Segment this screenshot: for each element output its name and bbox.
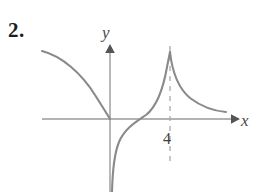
graph-canvas xyxy=(0,0,260,192)
figure-container: 2. y x 4 xyxy=(0,0,260,192)
curve-right-branch xyxy=(170,52,226,112)
x-tick-label-4: 4 xyxy=(163,131,171,147)
curve-left-branch xyxy=(42,51,110,119)
y-axis-arrowhead-icon xyxy=(105,44,115,53)
y-axis-label: y xyxy=(102,24,110,41)
x-axis-arrowhead-icon xyxy=(231,114,240,124)
x-axis-label: x xyxy=(241,112,249,129)
curve-middle-branch xyxy=(112,52,170,192)
